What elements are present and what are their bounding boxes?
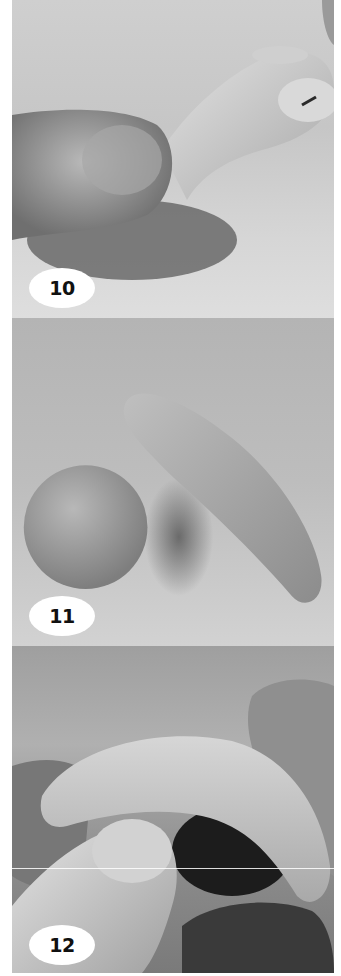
step-number-badge: 10 [29, 268, 95, 308]
step-number: 10 [49, 277, 74, 299]
fingers-bending-clay-illustration [12, 646, 334, 973]
step-number-badge: 12 [29, 925, 95, 965]
step-number: 11 [49, 605, 74, 627]
step-number: 12 [49, 934, 74, 956]
scan-line-artifact [12, 868, 334, 869]
step-panel-11: 11 [12, 318, 334, 646]
step-panel-12: 12 [12, 646, 334, 973]
step-number-badge: 11 [29, 596, 95, 636]
step-photo-strip: 10 11 [12, 0, 334, 973]
step-panel-10: 10 [12, 0, 334, 318]
